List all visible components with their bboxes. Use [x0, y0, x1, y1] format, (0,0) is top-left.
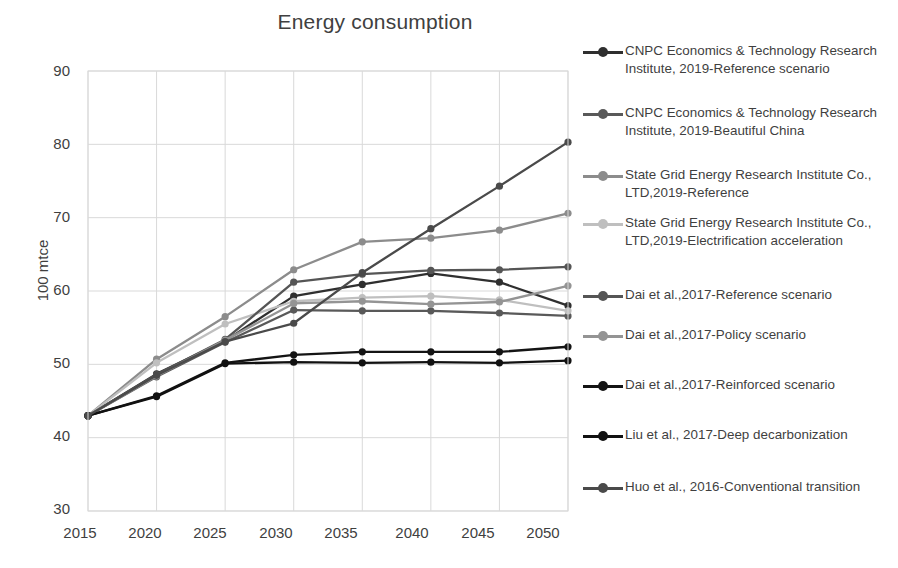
legend-item-label: Dai et al.,2017-Reference scenario — [625, 286, 832, 304]
series-marker — [427, 225, 434, 232]
legend-swatch-icon — [583, 378, 623, 394]
series-marker — [222, 360, 229, 367]
series-marker — [290, 300, 297, 307]
legend-item[interactable]: Huo et al., 2016-Conventional transition — [583, 478, 860, 496]
legend-item-label: Huo et al., 2016-Conventional transition — [625, 478, 860, 496]
legend-marker-icon — [598, 291, 608, 301]
series-marker — [359, 281, 366, 288]
legend-swatch-icon — [583, 168, 623, 184]
legend-marker-icon — [598, 219, 608, 229]
legend-marker-icon — [598, 381, 608, 391]
legend-swatch-icon — [583, 428, 623, 444]
data-series-layer — [84, 139, 571, 420]
series-marker — [427, 267, 434, 274]
series-marker — [153, 393, 160, 400]
series-marker — [359, 298, 366, 305]
legend-swatch-icon — [583, 288, 623, 304]
legend-marker-icon — [598, 483, 608, 493]
legend-item-label: State Grid Energy Research Institute Co.… — [625, 214, 893, 249]
series-marker — [153, 372, 160, 379]
series-marker — [290, 306, 297, 313]
legend-item[interactable]: Liu et al., 2017-Deep decarbonization — [583, 426, 848, 444]
legend-marker-icon — [598, 109, 608, 119]
legend-item-label: Dai et al.,2017-Policy scenario — [625, 326, 806, 344]
series-marker — [496, 309, 503, 316]
legend-item[interactable]: CNPC Economics & Technology Research Ins… — [583, 104, 893, 139]
legend-swatch-icon — [583, 480, 623, 496]
series-marker — [496, 183, 503, 190]
legend-swatch-icon — [583, 328, 623, 344]
legend-swatch-icon — [583, 216, 623, 232]
series-marker — [427, 235, 434, 242]
series-marker — [496, 279, 503, 286]
legend-item[interactable]: CNPC Economics & Technology Research Ins… — [583, 42, 893, 77]
legend-item[interactable]: Dai et al.,2017-Reinforced scenario — [583, 376, 835, 394]
series-marker — [496, 359, 503, 366]
series-marker — [153, 359, 160, 366]
series-marker — [359, 348, 366, 355]
series-marker — [359, 307, 366, 314]
legend-item-label: CNPC Economics & Technology Research Ins… — [625, 104, 893, 139]
legend-item[interactable]: State Grid Energy Research Institute Co.… — [583, 214, 893, 249]
series-line — [88, 213, 568, 415]
series-marker — [222, 313, 229, 320]
series-marker — [427, 307, 434, 314]
series-marker — [290, 320, 297, 327]
legend-marker-icon — [598, 431, 608, 441]
series-marker — [290, 279, 297, 286]
series-marker — [290, 351, 297, 358]
legend-item-label: Dai et al.,2017-Reinforced scenario — [625, 376, 835, 394]
legend-item-label: Liu et al., 2017-Deep decarbonization — [625, 426, 848, 444]
series-marker — [222, 338, 229, 345]
legend-swatch-icon — [583, 106, 623, 122]
energy-consumption-chart: Energy consumption 100 mtce 90 80 70 60 … — [0, 0, 898, 568]
series-marker — [427, 348, 434, 355]
series-marker — [359, 238, 366, 245]
series-marker — [359, 269, 366, 276]
series-marker — [290, 266, 297, 273]
series-marker — [496, 298, 503, 305]
legend-marker-icon — [598, 331, 608, 341]
legend-item[interactable]: Dai et al.,2017-Reference scenario — [583, 286, 832, 304]
series-marker — [427, 359, 434, 366]
data-series — [84, 343, 571, 419]
legend-item[interactable]: Dai et al.,2017-Policy scenario — [583, 326, 806, 344]
series-marker — [496, 227, 503, 234]
series-line — [88, 361, 568, 416]
series-marker — [427, 301, 434, 308]
legend-swatch-icon — [583, 44, 623, 60]
series-marker — [496, 266, 503, 273]
data-series — [84, 357, 571, 419]
legend-item-label: CNPC Economics & Technology Research Ins… — [625, 42, 893, 77]
series-marker — [496, 348, 503, 355]
legend-item[interactable]: State Grid Energy Research Institute Co.… — [583, 166, 893, 201]
legend-marker-icon — [598, 171, 608, 181]
series-marker — [290, 359, 297, 366]
series-marker — [359, 359, 366, 366]
series-marker — [427, 293, 434, 300]
series-marker — [222, 320, 229, 327]
legend-item-label: State Grid Energy Research Institute Co.… — [625, 166, 893, 201]
legend-marker-icon — [598, 47, 608, 57]
